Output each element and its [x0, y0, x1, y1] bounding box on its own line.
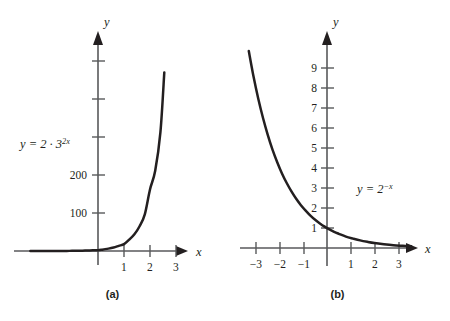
x-tick-label-b-0: −3	[250, 258, 263, 270]
y-tick-label-b-5: 5	[311, 142, 317, 154]
x-axis-label-a: x	[195, 245, 202, 259]
y-tick-label-b-9: 9	[311, 62, 317, 74]
chart-a-svg: 1 2 3 100 200 x y y = 2 · 32x	[0, 0, 225, 290]
y-axis-arrow-b	[322, 31, 332, 45]
svg-text:y = 2 · 32x: y = 2 · 32x	[18, 137, 70, 152]
y-tick-label-b-6: 6	[311, 122, 317, 134]
y-tick-label-b-7: 7	[311, 102, 317, 114]
curve-label-a: y = 2 · 32x	[18, 137, 70, 152]
curve-label-a-exponent: 2x	[62, 137, 70, 146]
curve-label-b-exponent: −x	[383, 182, 393, 191]
curve-label-a-text: y = 2 · 3	[18, 137, 62, 151]
y-tick-label-b-1: 1	[311, 222, 317, 234]
svg-text:y = 2−x: y = 2−x	[355, 182, 393, 197]
x-tick-label-a-2: 3	[173, 261, 179, 273]
x-tick-label-a-1: 2	[147, 261, 153, 273]
chart-a-axis-names: x y	[102, 15, 202, 259]
y-axis-label-a: y	[102, 15, 110, 29]
figure-pair: 1 2 3 100 200 x y y = 2 · 32x (a)	[0, 0, 450, 321]
x-tick-label-b-4: 2	[372, 258, 378, 270]
x-axis-label-b: x	[424, 242, 431, 256]
panel-b: −3 −2 −1 1 2 3 1 2 3 4 5 6 7 8 9 x y	[225, 0, 450, 321]
panel-a: 1 2 3 100 200 x y y = 2 · 32x (a)	[0, 0, 225, 321]
chart-b-axis-names: x y	[331, 15, 431, 256]
x-tick-label-a-0: 1	[121, 261, 127, 273]
y-tick-label-a-100: 100	[70, 207, 88, 219]
chart-b-svg: −3 −2 −1 1 2 3 1 2 3 4 5 6 7 8 9 x y	[225, 0, 450, 290]
y-tick-label-b-3: 3	[311, 182, 317, 194]
y-tick-label-a-200: 200	[70, 169, 88, 181]
y-tick-label-b-4: 4	[311, 162, 317, 174]
x-tick-label-b-5: 3	[396, 258, 402, 270]
y-axis-arrow-a	[93, 31, 103, 45]
y-tick-label-b-2: 2	[311, 202, 317, 214]
y-axis-label-b: y	[331, 15, 339, 29]
x-axis-arrow-b	[406, 243, 418, 253]
x-axis-arrow-a	[176, 246, 188, 256]
curve-label-b: y = 2−x	[355, 182, 393, 197]
x-tick-label-b-1: −2	[274, 258, 287, 270]
x-tick-label-b-2: −1	[298, 258, 311, 270]
chart-a-tick-labels: 1 2 3 100 200	[70, 169, 179, 273]
caption-a: (a)	[0, 288, 225, 300]
chart-b-tick-labels: −3 −2 −1 1 2 3 1 2 3 4 5 6 7 8 9	[250, 62, 402, 270]
caption-b: (b)	[225, 288, 450, 300]
y-tick-label-b-8: 8	[311, 82, 317, 94]
curve-label-b-text: y = 2	[355, 182, 383, 196]
x-tick-label-b-3: 1	[348, 258, 354, 270]
